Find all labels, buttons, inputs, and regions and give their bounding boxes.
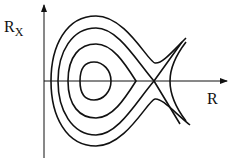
x-axis-label: R [207, 90, 218, 107]
phase-portrait-diagram: RX R [0, 0, 228, 159]
y-axis-label: RX [4, 18, 24, 39]
